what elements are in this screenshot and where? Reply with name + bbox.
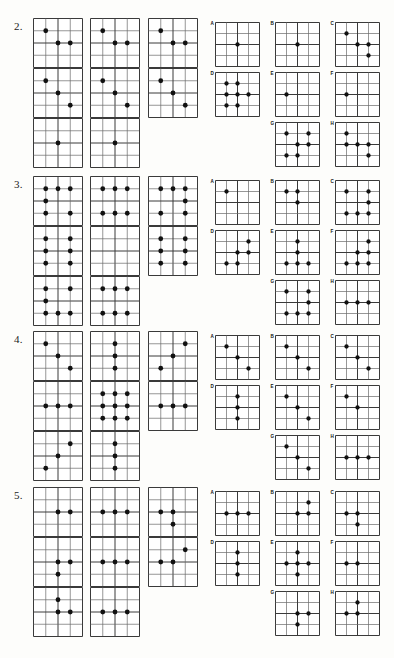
grid-label-D: D — [211, 385, 214, 390]
grid-label-E: E — [271, 230, 274, 235]
grid-right-s3-H[interactable] — [335, 280, 380, 325]
grid-label-D: D — [211, 541, 214, 546]
grid-right-s3-G[interactable] — [275, 280, 320, 325]
grid-right-s3-A[interactable] — [215, 180, 260, 225]
grid-label-A: A — [211, 22, 214, 27]
grid-right-s2-F[interactable] — [335, 72, 380, 117]
grid-right-s2-B[interactable] — [275, 22, 320, 67]
grid-label-D: D — [211, 72, 214, 77]
grid-label-F: F — [331, 72, 334, 77]
grid-label-B: B — [271, 491, 274, 496]
grid-right-s5-G[interactable] — [275, 591, 320, 636]
grid-right-s4-A[interactable] — [215, 335, 260, 380]
grid-right-s5-B[interactable] — [275, 491, 320, 536]
grid-label-G: G — [271, 591, 275, 596]
grid-label-F: F — [331, 230, 334, 235]
grid-right-s3-C[interactable] — [335, 180, 380, 225]
grid-right-s4-F[interactable] — [335, 385, 380, 430]
grid-right-s4-E[interactable] — [275, 385, 320, 430]
grid-right-s5-C[interactable] — [335, 491, 380, 536]
grid-label-C: C — [331, 491, 334, 496]
grid-label-D: D — [211, 230, 214, 235]
grid-right-s5-E[interactable] — [275, 541, 320, 586]
grid-right-s4-H[interactable] — [335, 435, 380, 480]
grid-right-s5-F[interactable] — [335, 541, 380, 586]
grid-label-H: H — [331, 122, 334, 127]
grid-left-s3-r2-c3[interactable] — [148, 226, 198, 276]
grid-left-s2-r2-c2[interactable] — [90, 68, 140, 118]
grid-left-s2-r1-c3[interactable] — [148, 18, 198, 68]
grid-left-s4-r1-c1[interactable] — [33, 331, 83, 381]
grid-left-s5-r1-c2[interactable] — [90, 487, 140, 537]
grid-left-s3-r3-c1[interactable] — [33, 276, 83, 326]
grid-left-s5-r3-c1[interactable] — [33, 587, 83, 637]
grid-left-s3-r3-c2[interactable] — [90, 276, 140, 326]
grid-label-C: C — [331, 180, 334, 185]
grid-label-G: G — [271, 122, 275, 127]
grid-right-s5-D[interactable] — [215, 541, 260, 586]
grid-label-B: B — [271, 335, 274, 340]
grid-right-s4-G[interactable] — [275, 435, 320, 480]
grid-right-s3-B[interactable] — [275, 180, 320, 225]
grid-label-H: H — [331, 280, 334, 285]
grid-left-s2-r1-c2[interactable] — [90, 18, 140, 68]
grid-label-B: B — [271, 180, 274, 185]
grid-right-s2-G[interactable] — [275, 122, 320, 167]
grid-left-s5-r2-c3[interactable] — [148, 537, 198, 587]
grid-label-A: A — [211, 180, 214, 185]
grid-label-A: A — [211, 335, 214, 340]
worksheet-page: 2.ABCDEFGH3.ABCDEFGH4.ABCDEFGH5.ABCDEFGH — [0, 0, 394, 658]
grid-label-F: F — [331, 541, 334, 546]
grid-label-H: H — [331, 435, 334, 440]
grid-label-E: E — [271, 541, 274, 546]
grid-left-s2-r3-c2[interactable] — [90, 118, 140, 168]
grid-label-E: E — [271, 72, 274, 77]
grid-left-s2-r2-c3[interactable] — [148, 68, 198, 118]
grid-left-s3-r1-c3[interactable] — [148, 176, 198, 226]
grid-left-s4-r2-c3[interactable] — [148, 381, 198, 431]
grid-right-s3-D[interactable] — [215, 230, 260, 275]
grid-label-G: G — [271, 435, 275, 440]
grid-left-s4-r2-c1[interactable] — [33, 381, 83, 431]
grid-left-s2-r1-c1[interactable] — [33, 18, 83, 68]
grid-label-A: A — [211, 491, 214, 496]
section-number: 2. — [14, 20, 23, 32]
grid-left-s3-r2-c2[interactable] — [90, 226, 140, 276]
grid-label-C: C — [331, 22, 334, 27]
grid-right-s4-D[interactable] — [215, 385, 260, 430]
grid-left-s4-r1-c2[interactable] — [90, 331, 140, 381]
grid-right-s3-E[interactable] — [275, 230, 320, 275]
grid-right-s2-D[interactable] — [215, 72, 260, 117]
grid-left-s2-r2-c1[interactable] — [33, 68, 83, 118]
grid-left-s5-r1-c3[interactable] — [148, 487, 198, 537]
grid-label-C: C — [331, 335, 334, 340]
grid-right-s2-H[interactable] — [335, 122, 380, 167]
grid-left-s3-r2-c1[interactable] — [33, 226, 83, 276]
grid-left-s4-r1-c3[interactable] — [148, 331, 198, 381]
grid-label-B: B — [271, 22, 274, 27]
grid-right-s4-C[interactable] — [335, 335, 380, 380]
grid-left-s5-r2-c2[interactable] — [90, 537, 140, 587]
grid-left-s3-r1-c2[interactable] — [90, 176, 140, 226]
grid-right-s5-H[interactable] — [335, 591, 380, 636]
grid-right-s5-A[interactable] — [215, 491, 260, 536]
grid-label-F: F — [331, 385, 334, 390]
grid-right-s3-F[interactable] — [335, 230, 380, 275]
section-number: 3. — [14, 178, 23, 190]
grid-right-s2-C[interactable] — [335, 22, 380, 67]
grid-left-s4-r3-c2[interactable] — [90, 431, 140, 481]
section-number: 5. — [14, 489, 23, 501]
grid-left-s2-r3-c1[interactable] — [33, 118, 83, 168]
grid-left-s5-r2-c1[interactable] — [33, 537, 83, 587]
grid-left-s5-r3-c2[interactable] — [90, 587, 140, 637]
grid-left-s4-r2-c2[interactable] — [90, 381, 140, 431]
grid-left-s4-r3-c1[interactable] — [33, 431, 83, 481]
grid-right-s2-A[interactable] — [215, 22, 260, 67]
grid-label-H: H — [331, 591, 334, 596]
grid-right-s4-B[interactable] — [275, 335, 320, 380]
grid-label-G: G — [271, 280, 275, 285]
grid-left-s3-r1-c1[interactable] — [33, 176, 83, 226]
section-number: 4. — [14, 333, 23, 345]
grid-right-s2-E[interactable] — [275, 72, 320, 117]
grid-left-s5-r1-c1[interactable] — [33, 487, 83, 537]
